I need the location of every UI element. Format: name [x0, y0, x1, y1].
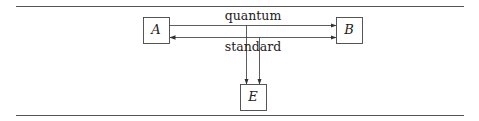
edge-label-quantum: quantum — [224, 9, 282, 23]
node-label-b: B — [336, 17, 362, 43]
edge-label-standard: standard — [224, 40, 282, 54]
node-label-e: E — [240, 84, 266, 110]
diagram-figure: A B E quantum standard — [0, 0, 479, 121]
node-label-a: A — [143, 17, 169, 43]
